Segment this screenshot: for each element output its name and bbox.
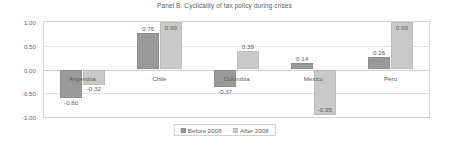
chart-container: Panel B. Cyclicality of tax policy durin… <box>0 0 449 144</box>
legend-label: After 2008 <box>240 127 269 134</box>
plot-area: -0.60-0.32Argentina0.760.99Chile-0.370.3… <box>43 21 430 118</box>
bar-value-label: -0.37 <box>218 88 232 95</box>
legend-label: Before 2008 <box>188 127 222 134</box>
bar-value-label: -0.60 <box>64 99 78 106</box>
y-axis-tick-label: 0.50 <box>24 42 36 49</box>
bar-value-label: 0.99 <box>165 24 177 31</box>
bar[interactable] <box>291 63 314 70</box>
chart-title: Panel B. Cyclicality of tax policy durin… <box>0 2 449 9</box>
y-axis-tick-label: 1.00 <box>24 19 36 26</box>
bar-value-label: 0.99 <box>396 24 408 31</box>
bar[interactable] <box>368 57 391 69</box>
bar[interactable] <box>237 51 260 70</box>
legend-item-before-2008[interactable]: Before 2008 <box>180 127 221 134</box>
bar[interactable] <box>137 33 160 69</box>
legend-item-after-2008[interactable]: After 2008 <box>233 127 269 134</box>
x-axis-category-label: Colombia <box>223 75 249 82</box>
x-axis-category-label: Mexico <box>304 75 324 82</box>
bar-value-label: -0.32 <box>87 85 101 92</box>
bar-value-label: -0.95 <box>318 106 332 113</box>
y-axis-tick-label: 0.00 <box>24 66 36 73</box>
bar-value-label: 0.39 <box>242 43 254 50</box>
x-axis-category-label: Chile <box>152 75 166 82</box>
y-axis: 1.000.500.00-0.50-1.00 <box>0 21 40 118</box>
legend-swatch-icon <box>233 128 238 133</box>
x-axis-category-label: Argentina <box>69 75 96 82</box>
y-axis-tick-label: -0.50 <box>22 90 36 97</box>
bar-value-label: 0.76 <box>142 25 154 32</box>
chart-legend: Before 2008 After 2008 <box>173 124 275 136</box>
legend-swatch-icon <box>180 128 185 133</box>
bar-value-label: 0.26 <box>373 49 385 56</box>
bar-value-label: 0.14 <box>296 55 308 62</box>
x-axis-category-label: Peru <box>384 75 397 82</box>
y-axis-tick-label: -1.00 <box>22 114 36 121</box>
bars-layer: -0.60-0.32Argentina0.760.99Chile-0.370.3… <box>44 22 429 117</box>
